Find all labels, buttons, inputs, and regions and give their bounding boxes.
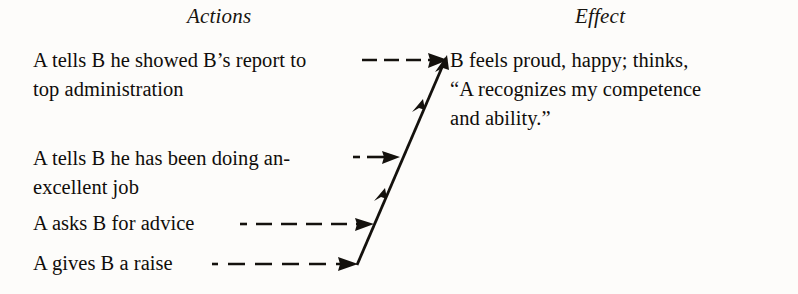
column-heading-actions: Actions [187,4,251,29]
action-item-1: A tells B he showed B’s report to top ad… [33,46,306,104]
column-heading-effect: Effect [575,4,625,29]
connector-arrow-3 [240,218,374,231]
connector-arrow-1 [362,53,448,68]
figure-canvas: Actions Effect A tells B he showed B’s r… [0,0,798,294]
action-item-2: A tells B he has been doing an- excellen… [33,144,290,202]
connector-arrow-2 [353,151,400,164]
effect-text: B feels proud, happy; thinks, “A recogni… [450,46,780,133]
connector-arrow-4 [212,257,358,271]
action-item-3: A asks B for advice [33,209,195,238]
diagonal-spine-arrow [357,55,449,265]
action-item-4: A gives B a raise [33,249,173,278]
